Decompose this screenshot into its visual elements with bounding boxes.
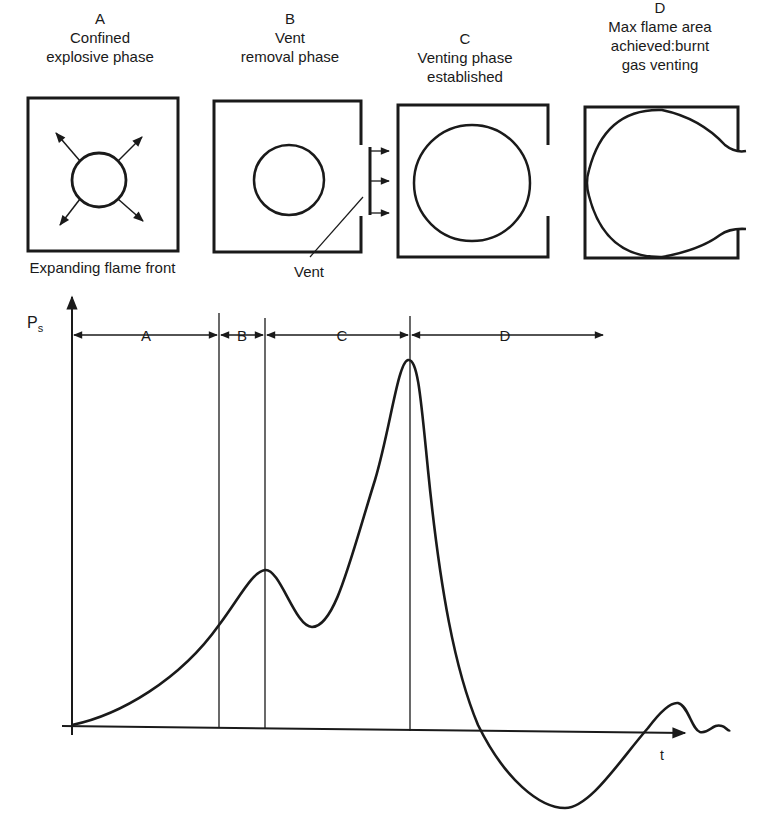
expansion-arrow-icon — [118, 199, 143, 221]
panel-c-flame — [414, 125, 530, 241]
x-axis — [62, 726, 685, 733]
panel-c-chamber — [398, 105, 548, 257]
phase-boundaries — [219, 313, 410, 731]
expansion-arrow-icon — [60, 199, 80, 225]
diagram-canvas — [0, 0, 758, 822]
panel-a-chamber — [28, 98, 178, 251]
panel-b-flame — [254, 145, 324, 215]
vent-pointer-line — [310, 197, 363, 257]
panel-a-flame-front — [72, 153, 126, 207]
panel-d-diagram — [585, 107, 746, 258]
pressure-curve — [72, 360, 730, 808]
panel-b-diagram — [214, 101, 389, 257]
expansion-arrow-icon — [56, 133, 80, 161]
expansion-arrow-icon — [118, 137, 142, 161]
panel-c-diagram — [398, 105, 548, 257]
panel-a-diagram — [28, 98, 178, 251]
panel-d-flame-venting — [587, 110, 746, 257]
panel-b-chamber — [214, 101, 361, 252]
chart-axes — [62, 297, 685, 735]
